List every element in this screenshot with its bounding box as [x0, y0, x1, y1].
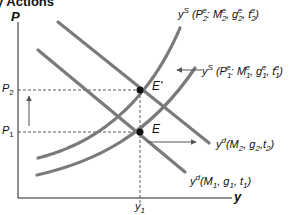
y1-label: y1	[135, 200, 145, 215]
supply-curve-2-label: yS (P2e: M2e, g2e, t2e)	[178, 6, 259, 23]
e-prime-label: E'	[152, 79, 162, 93]
supply-curve-1-label: yS (P1e: M1e, g1e, t1e)	[202, 63, 283, 80]
equilibrium-point-e-prime	[137, 87, 144, 94]
equilibrium-point-e	[137, 129, 144, 136]
demand-curve-2-label: yd(M2, g2,t2)	[216, 136, 274, 153]
p2-label: P2	[2, 82, 14, 97]
demand-curve-1-label: yd(M1, g1, t1)	[190, 173, 251, 190]
p1-label: P1	[2, 124, 14, 139]
diagram-canvas	[0, 0, 302, 215]
price-axis-label: P	[11, 9, 20, 24]
e-label: E	[152, 122, 160, 136]
output-axis-label: y	[234, 189, 241, 204]
demand-curve-1	[38, 50, 185, 172]
supply-curve-2	[38, 28, 180, 158]
